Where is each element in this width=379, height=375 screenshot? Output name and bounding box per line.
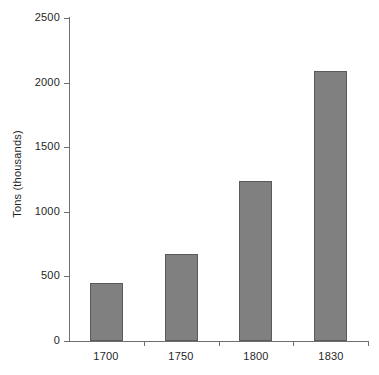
y-tick-mark [64,276,69,277]
x-tick-mark [368,341,369,346]
bar-1700 [90,283,123,341]
y-tick-mark [64,341,69,342]
x-tick-mark [219,341,220,346]
y-tick-mark [64,83,69,84]
x-tick-label: 1750 [151,350,211,362]
bar-chart: Tons (thousands) 05001000150020002500 17… [0,0,379,375]
x-tick-mark [293,341,294,346]
y-tick-label: 1000 [10,206,60,217]
x-tick-label: 1800 [226,350,286,362]
bar-1800 [239,181,272,341]
y-tick-label: 500 [10,270,60,281]
bar-1830 [314,71,347,341]
x-tick-mark [144,341,145,346]
x-tick-label: 1700 [76,350,136,362]
y-tick-label: 0 [10,335,60,346]
y-tick-mark [64,147,69,148]
y-tick-label: 2000 [10,77,60,88]
y-axis-line [69,17,70,342]
y-axis-title: Tons (thousands) [11,109,23,239]
bar-1750 [165,254,198,341]
y-tick-label: 2500 [10,12,60,23]
y-tick-mark [64,18,69,19]
x-tick-label: 1830 [301,350,361,362]
y-tick-label: 1500 [10,141,60,152]
y-tick-mark [64,212,69,213]
